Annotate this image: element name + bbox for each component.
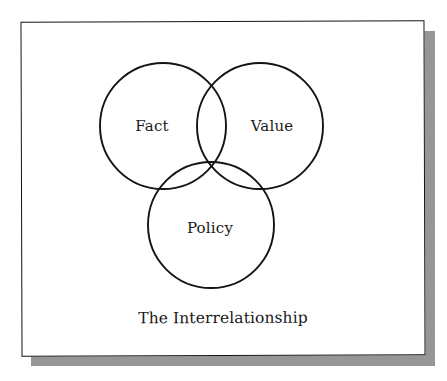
venn-label-value: Value xyxy=(251,117,294,135)
figure-page: Fact Value Policy The Interrelationship xyxy=(0,0,447,381)
venn-label-policy: Policy xyxy=(187,219,233,237)
venn-label-fact: Fact xyxy=(135,117,169,135)
figure-caption: The Interrelationship xyxy=(138,309,308,328)
figure-frame xyxy=(20,20,425,356)
